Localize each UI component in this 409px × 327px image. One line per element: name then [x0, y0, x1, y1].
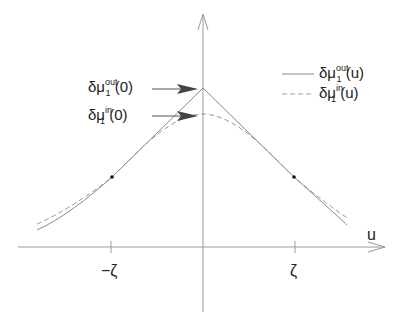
- curve-out: [37, 88, 347, 230]
- marker-neg-zeta: [110, 175, 114, 179]
- diagram-canvas: [0, 0, 409, 327]
- curve-in: [37, 114, 349, 224]
- legend-in-label: δμin1 (u): [319, 84, 359, 101]
- annotation-out-label: δμout1 (0): [88, 78, 133, 95]
- marker-pos-zeta: [292, 175, 296, 179]
- tick-label-neg-zeta: −ζ: [101, 262, 117, 280]
- tick-label-pos-zeta: ζ: [290, 262, 297, 280]
- annotation-in-label: δμin1 (0): [88, 106, 128, 123]
- legend-out-label: δμout1 (u): [319, 64, 364, 81]
- x-axis-label: u: [367, 226, 376, 244]
